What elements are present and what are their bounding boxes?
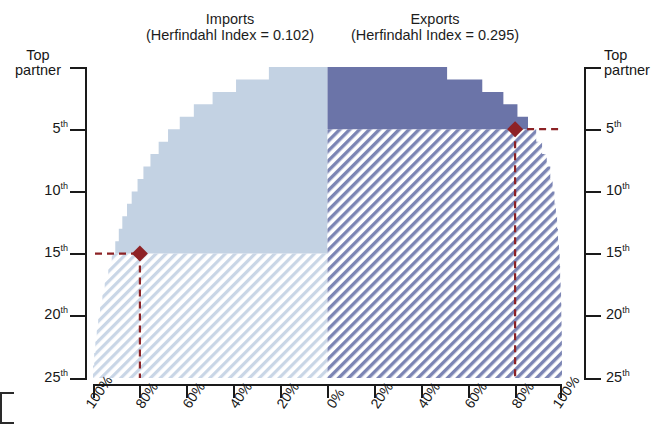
- y-right-10-suffix: th: [622, 181, 630, 191]
- y-left-25-num: 25: [44, 369, 60, 385]
- exports-title-line1: Exports: [300, 12, 570, 28]
- y-left-25-suffix: th: [60, 368, 68, 378]
- y-axis-right-label-top-partner: Top partner: [604, 48, 670, 78]
- y-axis-left-label-15: 15th: [22, 243, 68, 260]
- y-axis-right-label-25: 25th: [606, 368, 630, 385]
- y-left-5-suffix: th: [60, 119, 68, 129]
- y-axis-right-label-15: 15th: [606, 243, 630, 260]
- y-right-20-suffix: th: [622, 305, 630, 315]
- y-axis-left-tick-25: [70, 378, 87, 380]
- exports-panel-title: Exports (Herfindahl Index = 0.295): [300, 12, 570, 43]
- y-axis-left-label-20: 20th: [22, 305, 68, 322]
- y-axis-left-tick-15: [70, 253, 87, 255]
- y-axis-right-tick-15: [584, 253, 601, 255]
- y-axis-right-top-line1: Top: [604, 47, 627, 63]
- y-axis-left-label-25: 25th: [22, 368, 68, 385]
- y-right-15-suffix: th: [622, 243, 630, 253]
- y-axis-right-label-10: 10th: [606, 181, 630, 198]
- imports-hatched-region: [93, 254, 328, 378]
- y-right-10-num: 10: [606, 182, 622, 198]
- y-axis-left-label-top-partner: Top partner: [8, 48, 68, 78]
- y-axis-right-label-5: 5th: [606, 119, 622, 136]
- y-axis-left-label-5: 5th: [30, 119, 68, 136]
- y-axis-right-spine: [584, 67, 586, 380]
- y-axis-right-tick-5: [584, 129, 601, 131]
- exports-hatched-region: [328, 129, 563, 378]
- x-axis-label-100-right: 100%: [549, 373, 583, 412]
- y-axis-right-label-20: 20th: [606, 305, 630, 322]
- y-axis-right-tick-20: [584, 315, 601, 317]
- y-axis-right-tick-top: [584, 67, 601, 69]
- y-axis-left-tick-top: [70, 67, 87, 69]
- plot-area: [93, 67, 562, 378]
- y-right-5-suffix: th: [614, 119, 622, 129]
- exports-title-line2: (Herfindahl Index = 0.295): [300, 28, 570, 44]
- chart-figure: Imports (Herfindahl Index = 0.102) Expor…: [0, 0, 672, 442]
- y-axis-left-tick-10: [70, 191, 87, 193]
- y-left-20-num: 20: [44, 306, 60, 322]
- y-axis-right-tick-10: [584, 191, 601, 193]
- y-left-15-num: 15: [44, 244, 60, 260]
- y-right-25-num: 25: [606, 369, 622, 385]
- y-axis-left-top-line1: Top: [26, 47, 49, 63]
- y-left-10-suffix: th: [60, 181, 68, 191]
- y-left-15-suffix: th: [60, 243, 68, 253]
- y-right-15-num: 15: [606, 244, 622, 260]
- y-axis-left-tick-5: [70, 129, 87, 131]
- y-right-5-num: 5: [606, 120, 614, 136]
- y-right-25-suffix: th: [622, 368, 630, 378]
- chart-svg: [93, 67, 562, 378]
- y-left-20-suffix: th: [60, 305, 68, 315]
- imports-cumulative-step: [115, 67, 327, 254]
- y-axis-left-spine: [85, 67, 87, 380]
- y-axis-right-tick-25: [584, 378, 601, 380]
- y-axis-left-top-line2: partner: [15, 62, 61, 78]
- y-axis-left-label-10: 10th: [22, 181, 68, 198]
- y-left-10-num: 10: [44, 182, 60, 198]
- y-axis-left-tick-20: [70, 315, 87, 317]
- x-axis-label-100-left: 100%: [82, 373, 116, 412]
- page-edge-artifact: [0, 392, 14, 424]
- exports-cumulative-step: [328, 67, 528, 129]
- y-axis-right-top-line2: partner: [604, 62, 650, 78]
- y-right-20-num: 20: [606, 306, 622, 322]
